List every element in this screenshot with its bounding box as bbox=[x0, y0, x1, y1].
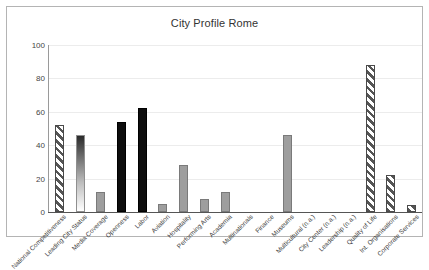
y-tick-label: 40 bbox=[11, 141, 45, 150]
bar[interactable] bbox=[138, 108, 147, 212]
bar[interactable] bbox=[200, 199, 209, 212]
y-tick-label: 80 bbox=[11, 74, 45, 83]
x-tick-label: Corporate Services bbox=[375, 213, 419, 257]
bar[interactable] bbox=[117, 122, 126, 212]
bar[interactable] bbox=[158, 204, 167, 212]
bar[interactable] bbox=[76, 135, 85, 212]
y-tick-label: 100 bbox=[11, 41, 45, 50]
x-tick-label-text: Corporate Services bbox=[375, 213, 419, 257]
bar[interactable] bbox=[179, 165, 188, 212]
bar[interactable] bbox=[407, 205, 416, 212]
y-tick-label: 60 bbox=[11, 107, 45, 116]
chart-title: City Profile Rome bbox=[7, 17, 422, 29]
bar[interactable] bbox=[386, 175, 395, 212]
y-axis-ticks: 100806040200 bbox=[7, 45, 45, 212]
y-tick-label: 0 bbox=[11, 208, 45, 217]
x-tick-label: Labor bbox=[133, 213, 150, 230]
plot-area bbox=[49, 45, 422, 212]
y-tick-label: 20 bbox=[11, 174, 45, 183]
bar[interactable] bbox=[55, 125, 64, 212]
gridline bbox=[49, 45, 422, 46]
chart-frame: City Profile Rome 100806040200 National … bbox=[6, 6, 423, 237]
bar[interactable] bbox=[283, 135, 292, 212]
bar[interactable] bbox=[221, 192, 230, 212]
x-tick-label-text: Labor bbox=[133, 213, 150, 230]
bar[interactable] bbox=[96, 192, 105, 212]
bar[interactable] bbox=[366, 65, 375, 212]
